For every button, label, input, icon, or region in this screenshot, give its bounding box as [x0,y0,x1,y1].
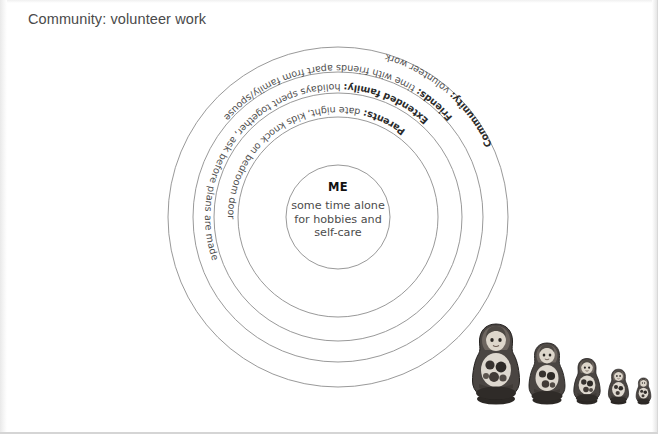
matryoshka-doll-2 [527,341,567,405]
matryoshka-doll-5 [635,377,652,405]
ring-label-parents-bold: Parents: [362,108,407,137]
matryoshka-dolls-illustration [470,319,648,405]
ring-label-community-bold: Community: [447,90,494,149]
matryoshka-doll-3 [572,357,602,405]
ring-circle-parents [238,117,438,317]
ring-circle-me [286,165,390,269]
page-canvas: Community: volunteer work Parents: date … [0,0,658,434]
matryoshka-doll-4 [607,368,630,405]
ring-circle-extended-family [214,93,462,341]
matryoshka-doll-1 [470,322,522,405]
